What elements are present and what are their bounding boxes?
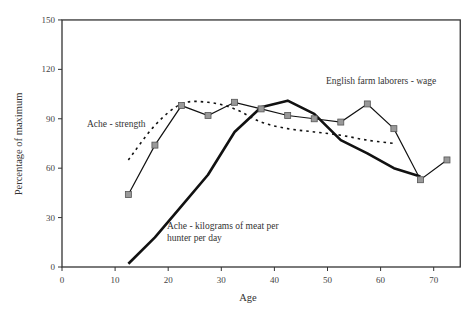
x-tick-label: 50 (323, 275, 333, 285)
x-tick-label: 40 (270, 275, 280, 285)
y-tick-label: 0 (51, 262, 56, 272)
annotation-layer: English farm laborers - wage Ache - stre… (87, 76, 436, 243)
x-tick-label: 60 (376, 275, 386, 285)
label-strength: Ache - strength (87, 119, 146, 129)
x-tick-label: 0 (60, 275, 65, 285)
label-meat-line1: Ache - kilograms of meat per (167, 221, 279, 231)
x-axis-title: Age (239, 292, 257, 303)
wage-marker (232, 99, 238, 105)
x-tick-label: 70 (429, 275, 439, 285)
wage-marker (311, 116, 317, 122)
y-tick-label: 120 (42, 64, 56, 74)
x-tick-label: 30 (217, 275, 227, 285)
wage-marker (285, 112, 291, 118)
line-chart: 0306090120150 010203040506070 English fa… (0, 0, 475, 317)
y-tick-label: 60 (46, 163, 56, 173)
wage-marker (391, 126, 397, 132)
wage-marker (258, 106, 264, 112)
x-tick-label: 10 (111, 275, 121, 285)
y-tick-label: 90 (46, 114, 56, 124)
wage-marker (178, 103, 184, 109)
label-meat-line2: hunter per day (167, 233, 222, 243)
wage-marker (205, 112, 211, 118)
wage-marker (444, 157, 450, 163)
y-axis: 0306090120150 (42, 15, 63, 272)
y-tick-label: 150 (42, 15, 56, 25)
wage-marker (417, 177, 423, 183)
wage-marker (152, 142, 158, 148)
label-wage: English farm laborers - wage (326, 76, 436, 86)
wage-marker (338, 119, 344, 125)
x-axis: 010203040506070 (60, 267, 439, 285)
y-axis-title: Percentage of maximum (13, 93, 24, 196)
wage-marker (125, 192, 131, 198)
y-tick-label: 30 (46, 213, 56, 223)
x-tick-label: 20 (164, 275, 174, 285)
wage-marker (364, 101, 370, 107)
